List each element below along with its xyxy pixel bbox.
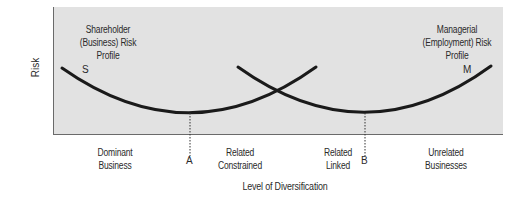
managerial-label-line: (Employment) Risk: [410, 36, 504, 49]
managerial-profile-label: Managerial (Employment) Risk Profile: [410, 23, 504, 62]
point-a-label: A: [186, 155, 193, 166]
category-label-line: Related: [304, 146, 372, 159]
category-related-constrained: Related Constrained: [206, 146, 274, 172]
category-label-line: Unrelated: [408, 146, 485, 159]
category-dominant-business: Dominant Business: [81, 146, 149, 172]
managerial-label-line: Profile: [410, 49, 504, 62]
shareholder-label-line: Shareholder: [66, 23, 151, 36]
category-label-line: Related: [206, 146, 274, 159]
managerial-risk-curve: [238, 66, 491, 112]
category-label-line: Businesses: [408, 159, 485, 172]
shareholder-profile-label: Shareholder (Business) Risk Profile: [66, 23, 151, 62]
category-label-line: Business: [81, 159, 149, 172]
s-marker-label: S: [82, 64, 89, 75]
category-unrelated-businesses: Unrelated Businesses: [408, 146, 485, 172]
managerial-label-line: Managerial: [410, 23, 504, 36]
shareholder-label-line: Profile: [66, 49, 151, 62]
x-axis-label: Level of Diversification: [226, 180, 345, 193]
category-related-linked: Related Linked: [304, 146, 372, 172]
category-label-line: Linked: [304, 159, 372, 172]
y-axis-label: Risk: [30, 58, 41, 77]
m-marker-label: M: [463, 64, 471, 75]
category-label-line: Dominant: [81, 146, 149, 159]
category-label-line: Constrained: [206, 159, 274, 172]
shareholder-label-line: (Business) Risk: [66, 36, 151, 49]
